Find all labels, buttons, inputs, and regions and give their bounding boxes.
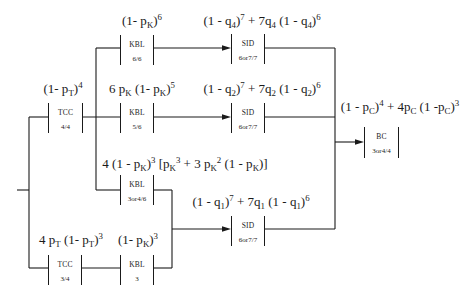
formula-kbl-5of6: 6 pK (1- pK)5: [109, 78, 175, 100]
block-spec: 5/6: [121, 123, 153, 131]
block-name: KBL: [121, 41, 153, 49]
block-tcc-4of4: TCC 4/4: [48, 103, 83, 133]
formula-sid-bottom: (1 - q1)7 + 7q1 (1 - q1)6: [192, 191, 309, 213]
block-sid-bottom: SID 6or7/7: [231, 216, 265, 246]
formula-segment-base: (1- p: [118, 232, 143, 247]
formula-segment-base: + 7q: [245, 81, 272, 96]
formula-kbl-6of6: (1- pK)6: [122, 10, 162, 32]
block-spec: 3or4/6: [121, 195, 153, 203]
formula-segment-sup: 6: [316, 12, 320, 22]
arrowhead-icon: [222, 226, 231, 231]
block-name: KBL: [121, 109, 153, 117]
block-name: SID: [232, 222, 264, 230]
formula-segment-base: (1 - p: [341, 99, 369, 114]
formula-segment-base: (1 - q: [203, 13, 231, 28]
formula-segment-base: (1 - q: [265, 194, 296, 209]
block-sid-top: SID 6or7/7: [231, 34, 265, 64]
block-name: SID: [232, 109, 264, 117]
block-kbl-5of6: KBL 5/6: [120, 103, 154, 133]
arrowhead-icon: [222, 114, 231, 119]
block-kbl-3: KBL 3: [120, 255, 154, 285]
formula-tcc-3of4: 4 pT (1- pT)3: [39, 229, 103, 251]
formula-segment-base: + 4p: [384, 99, 411, 114]
formula-segment-base: 6 p: [109, 81, 125, 96]
formula-tcc-4of4: (1- pT)4: [43, 78, 82, 100]
block-spec: 3or4/4: [365, 147, 398, 155]
block-sid-middle: SID 6or7/7: [231, 103, 265, 133]
formula-segment-sup: 6: [305, 193, 309, 203]
formula-segment-base: 4 (1 - p: [102, 156, 140, 171]
formula-segment-sup: 4: [78, 80, 82, 90]
formula-bc: (1 - pC)4 + 4pC (1 -pC)3: [341, 96, 459, 118]
formula-segment-base: + 7q: [234, 194, 261, 209]
formula-segment-base: (1 - q: [192, 194, 220, 209]
formula-sid-top: (1 - q4)7 + 7q4 (1 - q4)6: [203, 10, 320, 32]
block-spec: 6or7/7: [232, 123, 264, 131]
block-name: TCC: [49, 261, 81, 269]
formula-segment-base: (1 -p: [416, 99, 444, 114]
block-tcc-3of4: TCC 3/4: [48, 255, 82, 285]
formula-segment-base: (1- p: [132, 81, 160, 96]
block-spec: 3/4: [49, 275, 81, 283]
block-name: TCC: [49, 109, 82, 117]
formula-segment-sup: 3: [154, 231, 158, 241]
formula-segment-base: [p: [155, 156, 169, 171]
formula-sid-middle: (1 - q2)7 + 7q2 (1 - q2)6: [203, 78, 320, 100]
formula-segment-sup: 5: [171, 80, 175, 90]
formula-segment-sup: 3: [455, 98, 459, 108]
formula-segment-base: (1 - q: [203, 81, 231, 96]
formula-segment-base: + 3 p: [180, 156, 210, 171]
block-kbl-6of6: KBL 6/6: [120, 35, 154, 65]
block-name: KBL: [121, 261, 153, 269]
arrowhead-icon: [355, 139, 364, 144]
formula-segment-base: + 7q: [245, 13, 272, 28]
block-spec: 3: [121, 275, 153, 283]
formula-kbl-3or4of6: 4 (1 - pK)3 [pK3 + 3 pK2 (1 - pK)]: [102, 153, 267, 175]
formula-segment-base: )]: [259, 156, 268, 171]
block-kbl-3or4of6: KBL 3or4/6: [120, 175, 154, 205]
block-name: KBL: [121, 181, 153, 189]
formula-segment-base: (1- p: [61, 232, 89, 247]
block-name: SID: [232, 40, 264, 48]
formula-segment-base: (1 - q: [276, 81, 307, 96]
reliability-block-diagram: TCC 4/4 KBL 6/6 KBL 5/6 KBL 3or4/6 TCC 3…: [0, 0, 472, 302]
block-name: BC: [365, 133, 398, 141]
block-bc: BC 3or4/4: [364, 127, 399, 158]
block-spec: 6or7/7: [232, 54, 264, 62]
formula-segment-sup: 3: [99, 231, 103, 241]
formula-segment-base: (1 - p: [221, 156, 252, 171]
block-spec: 4/4: [49, 123, 82, 131]
formula-segment-base: (1 - q: [276, 13, 307, 28]
formula-kbl-3: (1- pK)3: [118, 229, 158, 251]
formula-segment-sup: 6: [316, 80, 320, 90]
formula-segment-base: 4 p: [39, 232, 55, 247]
formula-segment-sup: 6: [158, 12, 162, 22]
arrowhead-icon: [222, 45, 231, 50]
block-spec: 6/6: [121, 55, 153, 63]
block-spec: 6or7/7: [232, 236, 264, 244]
formula-segment-base: (1- p: [122, 13, 147, 28]
formula-segment-base: (1- p: [43, 81, 68, 96]
